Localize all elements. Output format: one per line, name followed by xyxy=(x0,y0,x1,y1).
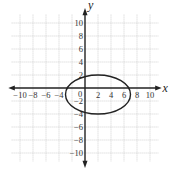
coordinate-plane: −10−8−6−4246810108642−2−4−6−8−10 x y 0 xyxy=(0,0,177,173)
origin-label: 0 xyxy=(78,89,82,99)
arrow-up-icon xyxy=(83,8,88,15)
y-tick-label: 10 xyxy=(75,18,84,28)
x-tick-label: −4 xyxy=(54,90,64,100)
x-tick-label: −10 xyxy=(13,90,26,100)
x-tick-label: 2 xyxy=(96,90,100,100)
arrow-right-icon xyxy=(155,86,162,91)
y-axis-label: y xyxy=(87,0,94,12)
x-tick-label: −8 xyxy=(28,90,37,100)
x-tick-label: 8 xyxy=(135,90,139,100)
y-tick-label: 8 xyxy=(79,31,83,41)
x-axis-label: x xyxy=(161,81,168,95)
axes xyxy=(8,8,161,168)
y-tick-label: 6 xyxy=(79,44,83,54)
arrow-down-icon xyxy=(83,161,88,168)
y-tick-label: −6 xyxy=(74,122,83,132)
x-tick-label: 6 xyxy=(122,90,126,100)
y-tick-label: 4 xyxy=(79,57,84,67)
y-tick-label: −10 xyxy=(70,148,83,158)
y-tick-label: −8 xyxy=(74,135,83,145)
x-tick-label: 4 xyxy=(109,90,114,100)
x-tick-label: −6 xyxy=(41,90,50,100)
x-tick-label: 10 xyxy=(146,90,155,100)
